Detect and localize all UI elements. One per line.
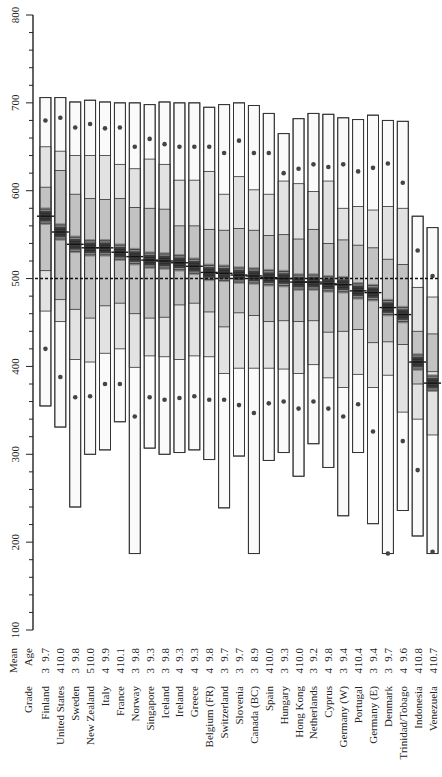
box-hong-kong: [290, 119, 307, 477]
box-germany-e-: [365, 115, 382, 524]
mean-age-label: 10.0: [54, 648, 66, 668]
country-label: Greece: [188, 686, 200, 717]
country-label: Portugal: [352, 686, 364, 723]
grade-label: 3: [144, 668, 156, 674]
box-plot-chart: 100200300400500600700800MeanAgeGrade9.73…: [0, 0, 442, 777]
box-united-states: [52, 98, 69, 427]
y-tick-label: 200: [9, 533, 21, 550]
mean-age-label: 9.7: [39, 648, 51, 662]
grade-label: 4: [188, 668, 200, 674]
grade-label: 4: [173, 668, 185, 674]
country-label: Hungary: [278, 686, 290, 725]
box-spain: [260, 113, 277, 460]
mean-age-label: 10.0: [263, 648, 275, 668]
mean-age-label: 9.9: [99, 648, 111, 662]
mean-age-label: 9.2: [307, 648, 319, 662]
mean-age-label: 9.7: [382, 648, 394, 662]
box-switzerland: [216, 105, 233, 508]
country-label: Ireland: [173, 686, 185, 718]
box-germany-w-: [335, 118, 352, 516]
country-label: Trinidad/Tobago: [397, 686, 409, 760]
y-tick-label: 300: [9, 446, 21, 463]
box-singapore: [141, 105, 158, 449]
box-finland: [37, 98, 54, 406]
mean-age-label: 9.3: [278, 648, 290, 662]
grade-label: 5: [84, 668, 96, 674]
grade-label: 4: [203, 668, 215, 674]
grade-label: 3: [69, 668, 81, 674]
mean-age-label: 9.8: [203, 648, 215, 662]
country-label: Belgium (FR): [203, 686, 216, 748]
grade-label: 4: [99, 668, 111, 674]
column-headers: MeanAgeGrade: [7, 648, 34, 713]
country-label: Cyprus: [322, 686, 334, 718]
grade-label: 4: [427, 668, 439, 674]
country-label: Venezuela: [427, 686, 439, 731]
y-axis: 100200300400500600700800: [9, 6, 33, 638]
mean-age-label: 10.4: [352, 648, 364, 668]
mean-age-label: 10.1: [114, 648, 126, 667]
grade-label: 3: [337, 668, 349, 674]
y-tick-label: 800: [9, 6, 21, 23]
grade-label: 3: [233, 668, 245, 674]
boxes: [37, 98, 441, 556]
grade-label: 3: [367, 668, 379, 674]
country-label: Slovenia: [233, 686, 245, 725]
country-label: Netherlands: [307, 686, 319, 739]
grade-label: 4: [322, 668, 334, 674]
box-indonesia: [409, 216, 426, 536]
country-label: Sweden: [69, 686, 81, 721]
grade-label: 4: [114, 668, 126, 674]
mean-age-label: 9.3: [173, 648, 185, 662]
country-label: Hong Kong: [293, 686, 305, 738]
grade-label: 3: [307, 668, 319, 674]
box-venezuela: [424, 228, 441, 554]
grade-label: 3: [39, 668, 51, 674]
grade-label: 4: [293, 668, 305, 674]
box-belgium-fr-: [201, 107, 218, 459]
country-label: New Zealand: [84, 686, 96, 745]
grade-label: 3: [218, 668, 230, 674]
mean-age-label: 10.8: [412, 648, 424, 668]
mean-age-label: 8.9: [248, 648, 260, 662]
country-label: Iceland: [159, 686, 171, 719]
box-greece: [186, 103, 203, 450]
header-mean: Mean: [7, 648, 19, 674]
y-tick-label: 100: [9, 621, 21, 638]
mean-age-label: 9.7: [233, 648, 245, 662]
header-grade: Grade: [22, 686, 34, 713]
country-label: Switzerland: [218, 686, 230, 739]
mean-age-label: 9.4: [367, 648, 379, 662]
box-italy: [97, 102, 114, 450]
box-norway: [126, 103, 143, 554]
y-tick-label: 600: [9, 182, 21, 199]
box-canada-bc-: [245, 105, 262, 553]
grade-label: 4: [352, 668, 364, 674]
country-label: Norway: [129, 686, 141, 722]
mean-age-label: 9.8: [322, 648, 334, 662]
country-label: Denmark: [382, 686, 394, 727]
mean-age-label: 9.4: [337, 648, 349, 662]
grade-label: 3: [382, 668, 394, 674]
grade-label: 3: [248, 668, 260, 674]
grade-label: 3: [278, 668, 290, 674]
grade-label: 4: [54, 668, 66, 674]
country-label: Spain: [263, 686, 275, 712]
mean-age-label: 9.8: [129, 648, 141, 662]
box-sweden: [67, 102, 84, 507]
header-age: Age: [22, 648, 34, 666]
mean-age-label: 9.6: [397, 648, 409, 662]
mean-age-label: 10.0: [84, 648, 96, 668]
country-label: United States: [54, 686, 66, 745]
category-labels: 9.73Finland10.04United States9.83Sweden1…: [39, 648, 438, 760]
box-hungary: [275, 134, 292, 453]
box-denmark: [379, 120, 396, 555]
box-france: [111, 103, 128, 422]
y-tick-label: 400: [9, 358, 21, 375]
box-slovenia: [231, 103, 248, 456]
mean-age-label: 10.0: [293, 648, 305, 668]
mean-age-label: 10.7: [427, 648, 439, 668]
mean-age-label: 9.8: [159, 648, 171, 662]
country-label: Germany (E): [367, 686, 380, 744]
country-label: Germany (W): [337, 686, 350, 748]
